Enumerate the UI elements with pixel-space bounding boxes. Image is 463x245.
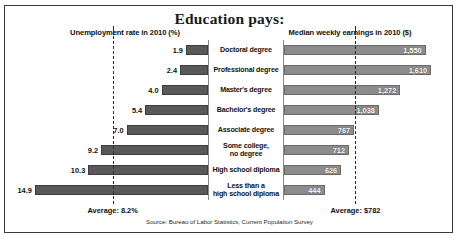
unemployment-average-label: Average: 8.2% [53,206,173,215]
unemployment-value: 5.4 [111,105,142,116]
earnings-value: 444 [289,185,321,196]
unemployment-value: 14.9 [1,185,32,196]
chart-plot-area: 1.9Doctoral degree1,5502.4Professional d… [5,40,454,200]
category-label: High school diploma [208,160,284,180]
unemployment-bar [162,85,209,95]
earnings-average-line [355,36,356,204]
earnings-value: 767 [318,125,350,136]
earnings-average-label: Average: $782 [295,206,415,215]
unemployment-average-line [113,36,114,204]
category-label: Less than ahigh school diploma [208,180,284,200]
category-label: Some college,no degree [208,140,284,160]
chart-row: 7.0Associate degree767 [5,120,454,140]
chart-row: 5.4Bachelor's degree1,038 [5,100,454,120]
category-label: Associate degree [208,120,284,140]
page-title: Education pays: [5,10,454,28]
source-note: Source: Bureau of Labor Statistics, Curr… [5,218,454,225]
chart-row: 4.0Master's degree1,272 [5,80,454,100]
chart-row: 1.9Doctoral degree1,550 [5,40,454,60]
unemployment-value: 1.9 [152,45,183,56]
earnings-value: 1,550 [390,45,422,56]
unemployment-bar [145,105,208,115]
category-label: Master's degree [208,80,284,100]
earnings-value: 626 [305,165,337,176]
chart-row: 10.3High school diploma626 [5,160,454,180]
unemployment-bar [180,65,208,75]
unemployment-value: 2.4 [146,65,177,76]
category-label: Professional degree [208,60,284,80]
right-column-header: Median weekly earnings in 2010 ($) [250,28,450,37]
unemployment-bar [127,125,208,135]
unemployment-value: 7.0 [93,125,124,136]
chart-row: 14.9Less than ahigh school diploma444 [5,180,454,200]
earnings-value: 1,272 [364,85,396,96]
chart-frame: Education pays: Unemployment rate in 201… [4,5,453,233]
earnings-value: 1,610 [395,65,427,76]
earnings-value: 712 [313,145,345,156]
unemployment-value: 10.3 [54,165,85,176]
category-label: Doctoral degree [208,40,284,60]
unemployment-average-tick [113,26,114,35]
unemployment-bar [88,165,208,175]
earnings-value: 1,038 [343,105,375,116]
unemployment-value: 4.0 [128,85,159,96]
unemployment-value: 9.2 [67,145,98,156]
earnings-average-tick [355,26,356,35]
chart-row: 9.2Some college,no degree712 [5,140,454,160]
unemployment-bar [35,185,208,195]
left-column-header: Unemployment rate in 2010 (%) [35,28,215,37]
chart-row: 2.4Professional degree1,610 [5,60,454,80]
unemployment-bar [186,45,208,55]
category-label: Bachelor's degree [208,100,284,120]
unemployment-bar [101,145,208,155]
